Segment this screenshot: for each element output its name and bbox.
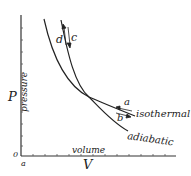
arrow-label-b: b bbox=[117, 113, 123, 123]
x-axis-symbol: V bbox=[83, 158, 92, 171]
x-origin-label: a bbox=[21, 160, 26, 168]
y-axis-label: pressure bbox=[20, 72, 29, 112]
origin-label: 0 bbox=[13, 151, 18, 159]
x-axis-label: volume bbox=[72, 146, 105, 155]
arrow-label-a: a bbox=[124, 97, 130, 107]
isothermal-label: isothermal bbox=[136, 109, 190, 119]
arrow-label-c: c bbox=[71, 32, 77, 43]
arrow-label-d: d bbox=[56, 34, 63, 45]
y-axis-symbol: P bbox=[8, 90, 17, 103]
